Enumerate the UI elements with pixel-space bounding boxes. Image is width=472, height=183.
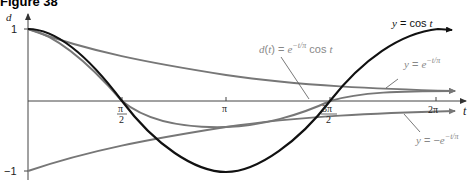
- svg-text:π: π: [118, 103, 123, 114]
- ytick-label-1: 1: [11, 23, 17, 35]
- ytick-label-neg1: −1: [4, 165, 17, 177]
- y-axis-label: d: [6, 11, 12, 23]
- lower-envelope-curve: [28, 111, 455, 171]
- upper-envelope-curve: [28, 29, 455, 91]
- lower-env-leader-line: [404, 114, 420, 132]
- damped-label: d(t) = e−t/π cos t: [259, 41, 333, 55]
- svg-text:2: 2: [119, 114, 124, 125]
- svg-text:2: 2: [326, 114, 331, 125]
- damped-leader-line: [281, 57, 309, 99]
- upper-env-leader-line: [386, 79, 398, 88]
- upper-envelope-label: y = e−t/π: [403, 56, 441, 70]
- axes: [24, 14, 466, 180]
- svg-text:3π: 3π: [322, 103, 332, 114]
- lower-envelope-label: y = −e−t/π: [415, 132, 460, 146]
- xtick-label-pi: π: [222, 103, 227, 114]
- chart-canvas: d t 1 −1 π 2 π 3π 2 2π y = cos t d(t) = …: [0, 0, 472, 183]
- x-axis-label: t: [463, 104, 467, 118]
- cosine-label: y = cos t: [391, 17, 434, 29]
- xtick-label-3pi-half: 3π 2: [321, 103, 337, 125]
- xtick-label-2pi: 2π: [428, 104, 438, 115]
